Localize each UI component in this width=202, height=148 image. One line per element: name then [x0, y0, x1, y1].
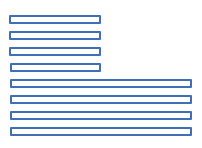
short-field-3 — [9, 47, 101, 56]
long-field-4 — [10, 127, 192, 136]
short-field-1 — [9, 15, 101, 24]
long-field-3 — [10, 111, 192, 120]
short-field-2 — [9, 31, 101, 40]
short-field-4 — [10, 63, 101, 72]
long-field-2 — [10, 95, 192, 104]
long-field-1 — [10, 79, 192, 88]
